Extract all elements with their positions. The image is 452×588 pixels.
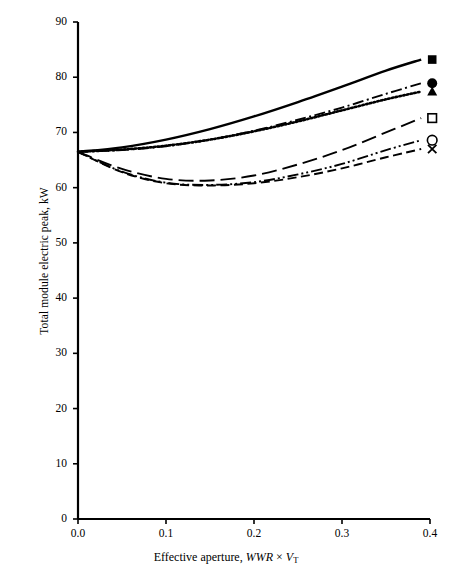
series-filled-triangle xyxy=(78,92,421,152)
open-square-marker xyxy=(428,114,437,123)
filled-triangle-marker xyxy=(427,86,437,95)
series-end-markers xyxy=(427,55,437,153)
filled-square-marker xyxy=(428,55,437,64)
plot-area xyxy=(0,0,452,588)
data-curves xyxy=(78,60,421,186)
series-filled-square xyxy=(78,60,421,152)
cross-x-marker xyxy=(428,145,436,153)
series-cross xyxy=(78,149,421,185)
open-circle-marker xyxy=(427,135,437,145)
chart-figure: Total module electric peak, kW Effective… xyxy=(0,0,452,588)
